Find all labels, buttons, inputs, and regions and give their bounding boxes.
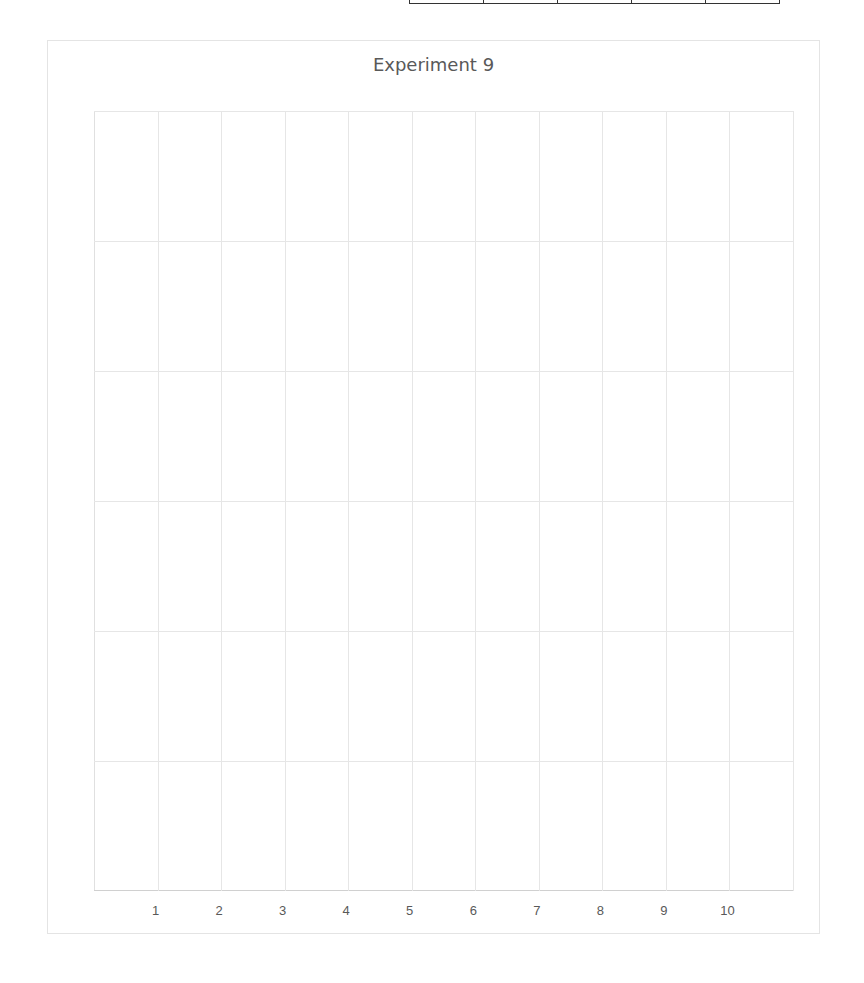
x-tick-label: 6 bbox=[470, 903, 477, 918]
horizontal-gridline bbox=[94, 241, 793, 242]
x-tick-label: 9 bbox=[660, 903, 667, 918]
vertical-gridline bbox=[475, 111, 476, 891]
x-tick-label: 2 bbox=[215, 903, 222, 918]
vertical-gridline bbox=[285, 111, 286, 891]
vertical-gridline bbox=[539, 111, 540, 891]
table-cell bbox=[706, 0, 779, 3]
x-tick-label: 3 bbox=[279, 903, 286, 918]
x-tick-label: 10 bbox=[720, 903, 734, 918]
vertical-gridline bbox=[602, 111, 603, 891]
table-cell bbox=[558, 0, 632, 3]
plot-area bbox=[94, 111, 793, 891]
horizontal-gridline bbox=[94, 761, 793, 762]
vertical-gridline bbox=[729, 111, 730, 891]
horizontal-gridline bbox=[94, 111, 793, 112]
vertical-gridline bbox=[348, 111, 349, 891]
x-tick-label: 1 bbox=[152, 903, 159, 918]
vertical-gridline bbox=[793, 111, 794, 891]
chart-title: Experiment 9 bbox=[48, 54, 819, 75]
table-cell bbox=[484, 0, 558, 3]
table-cell bbox=[410, 0, 484, 3]
horizontal-gridline bbox=[94, 371, 793, 372]
vertical-gridline bbox=[412, 111, 413, 891]
vertical-gridline bbox=[158, 111, 159, 891]
horizontal-gridline bbox=[94, 631, 793, 632]
x-tick-label: 7 bbox=[533, 903, 540, 918]
x-tick-label: 5 bbox=[406, 903, 413, 918]
horizontal-gridline bbox=[94, 501, 793, 502]
top-table-fragment bbox=[409, 0, 780, 4]
vertical-gridline bbox=[221, 111, 222, 891]
x-tick-label: 4 bbox=[343, 903, 350, 918]
chart-area: Experiment 9 12345678910 bbox=[47, 40, 820, 934]
vertical-gridline bbox=[666, 111, 667, 891]
x-axis-line bbox=[94, 890, 793, 891]
table-cell bbox=[632, 0, 706, 3]
x-tick-label: 8 bbox=[597, 903, 604, 918]
